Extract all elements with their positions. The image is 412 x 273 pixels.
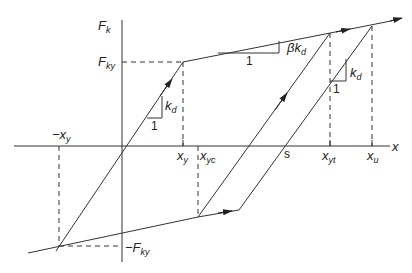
label-s: s bbox=[284, 147, 290, 161]
label-xyc: xyc bbox=[199, 148, 216, 165]
label-x-axis: x bbox=[391, 139, 399, 154]
slope-rise-left: kd bbox=[165, 98, 178, 115]
slope-run-beta: 1 bbox=[246, 54, 253, 68]
slope-triangle-kd-left bbox=[147, 96, 162, 118]
slope-triangle-kd-right bbox=[330, 59, 346, 81]
slope-run-left: 1 bbox=[151, 119, 158, 133]
arrow-reload bbox=[275, 93, 287, 110]
slope-rise-beta: βkd bbox=[286, 40, 307, 57]
label-xyt: xyt bbox=[321, 148, 336, 165]
slope-triangle-beta-kd bbox=[218, 41, 279, 53]
lower-post-yield-line bbox=[28, 217, 198, 253]
label-neg-xy: −xy bbox=[52, 127, 71, 144]
hysteresis-diagram: Fk Fky −Fky −xy xy xyc s xyt xu x 1 kd 1… bbox=[0, 0, 412, 273]
slope-rise-right: kd bbox=[350, 65, 363, 82]
label-fk: Fk bbox=[98, 18, 111, 35]
arrow-upper-mid bbox=[336, 29, 350, 32]
label-neg-fky: −Fky bbox=[125, 240, 150, 257]
arrow-elastic bbox=[160, 79, 172, 96]
label-xu: xu bbox=[366, 148, 379, 165]
slope-run-right: 1 bbox=[333, 82, 340, 96]
arrow-upper-end bbox=[390, 18, 402, 21]
lower-segment bbox=[198, 210, 239, 217]
label-xy: xy bbox=[176, 148, 189, 165]
upper-post-yield-line-ext bbox=[320, 20, 396, 35]
label-fky: Fky bbox=[98, 54, 115, 71]
reload-line bbox=[198, 33, 330, 217]
